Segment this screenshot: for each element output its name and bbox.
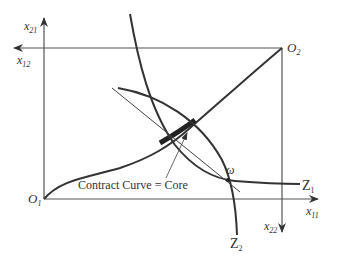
o1-label: O1 — [28, 191, 41, 208]
price-line — [112, 88, 240, 192]
omega-label: ω — [226, 163, 234, 177]
z1-label: Z1 — [302, 178, 315, 195]
edgeworth-box-diagram: x21 x12 x11 x22 O1 O2 Z1 Z2 ω Contract C… — [0, 0, 338, 260]
x12-label: x12 — [16, 53, 30, 69]
x11-label: x11 — [305, 204, 319, 220]
contract-curve-annotation: Contract Curve = Core — [78, 178, 188, 192]
o2-label: O2 — [287, 40, 300, 57]
z2-label: Z2 — [230, 236, 243, 253]
x22-label: x22 — [263, 219, 277, 235]
endowment-point — [226, 178, 230, 182]
x21-label: x21 — [23, 19, 37, 35]
